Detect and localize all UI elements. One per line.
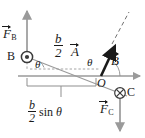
sin-angle-symbol: θ	[56, 106, 62, 118]
half-b-sin-theta-label: b2sinθ	[28, 99, 62, 124]
vector-bar-icon	[99, 101, 107, 102]
angle-theta-at-b-label: θ	[35, 59, 40, 70]
vector-b-field-label: B	[111, 54, 119, 67]
diagram-canvas	[0, 0, 145, 138]
point-b-dot-icon	[25, 55, 29, 59]
vector-bar-icon	[70, 44, 78, 45]
physics-force-diagram: FB B θ b2 A θ B O C FC b2sinθ	[0, 0, 145, 138]
origin-label: O	[97, 77, 106, 89]
vector-a-dashed-extension	[112, 12, 129, 44]
vector-bar-icon	[110, 53, 118, 54]
measurement-bracket	[27, 78, 96, 86]
half-b-length-label: b2	[54, 32, 63, 59]
vector-a-label: A	[71, 45, 79, 58]
angle-theta-at-o-label: θ	[87, 57, 92, 68]
vector-bar-icon	[2, 26, 10, 27]
sin-text: sin	[39, 106, 53, 118]
force-b-label: FB	[3, 27, 17, 42]
point-c-label: C	[127, 86, 135, 98]
force-c-label: FC	[100, 102, 114, 117]
point-b-label: B	[7, 50, 15, 62]
